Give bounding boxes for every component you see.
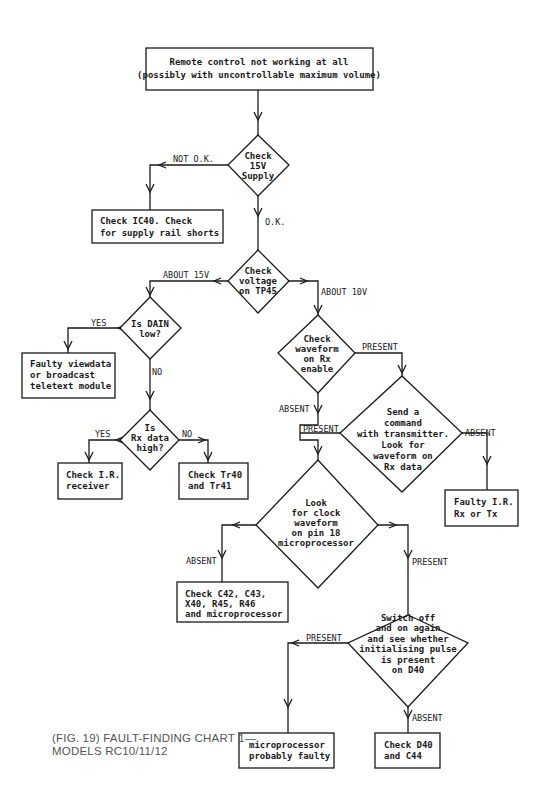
label-ok: O.K. (265, 217, 285, 227)
label-absent-send: ABSENT (465, 428, 496, 438)
label-absent-rx-enable: ABSENT (279, 404, 310, 414)
svg-text:Is DAIN: Is DAIN (131, 319, 169, 329)
svg-text:microprocessor: microprocessor (278, 538, 354, 548)
decision-switch-off-on: Switch off and on again and see whether … (348, 613, 468, 707)
svg-text:probably faulty: probably faulty (249, 751, 331, 761)
connector (179, 440, 208, 463)
connector (289, 281, 318, 315)
svg-text:and Tr41: and Tr41 (188, 481, 231, 491)
label-no-rx: NO (182, 429, 192, 439)
node-check-ic40: Check IC40. Check for supply rail shorts (92, 210, 223, 243)
svg-text:Check C42, C43,: Check C42, C43, (185, 589, 266, 599)
label-present-init: PRESENT (306, 633, 342, 643)
svg-text:for clock: for clock (292, 508, 341, 518)
svg-text:command: command (384, 418, 422, 428)
svg-text:(possibly with uncontrollable: (possibly with uncontrollable maximum vo… (137, 70, 381, 80)
svg-text:X40, R45, R46: X40, R45, R46 (185, 599, 255, 609)
caption-line-1: (FIG. 19) FAULT-FINDING CHART 1— (52, 732, 256, 745)
label-about-10v: ABOUT 10V (321, 287, 367, 297)
svg-text:Check: Check (303, 334, 331, 344)
svg-text:teletext module: teletext module (30, 381, 112, 391)
svg-text:for supply rail shorts: for supply rail shorts (100, 228, 219, 238)
node-check-tr40: Check Tr40 and Tr41 (179, 463, 248, 499)
connector (462, 433, 487, 490)
svg-text:Send a: Send a (387, 407, 420, 417)
svg-text:Faulty viewdata: Faulty viewdata (30, 359, 111, 369)
connector (150, 165, 228, 210)
label-present-rx-enable: PRESENT (362, 342, 398, 352)
node-check-c42: Check C42, C43, X40, R45, R46 and microp… (177, 582, 288, 622)
decision-check-tp45: Check voltage on TP45 (228, 250, 289, 313)
svg-text:Look for: Look for (381, 440, 425, 450)
svg-text:Remote control not working at: Remote control not working at all (170, 57, 349, 67)
connector (68, 328, 120, 353)
label-no-dain: NO (152, 367, 162, 377)
svg-text:Check: Check (244, 151, 272, 161)
connector (288, 643, 348, 733)
svg-text:Switch off: Switch off (381, 613, 435, 623)
decision-clock-waveform: Look for clock waveform on pin 18 microp… (256, 460, 378, 588)
caption-line-2: MODELS RC10/11/12 (52, 745, 256, 758)
svg-text:and on again: and on again (375, 623, 440, 633)
decision-rx-data-high: Is Rx data high? (120, 410, 179, 470)
svg-text:Is: Is (145, 423, 156, 433)
svg-text:Check Tr40: Check Tr40 (188, 470, 242, 480)
label-yes-rx: YES (95, 429, 110, 439)
svg-text:Supply: Supply (242, 171, 275, 181)
svg-text:Rx data: Rx data (131, 433, 169, 443)
node-start: Remote control not working at all (possi… (137, 48, 381, 90)
svg-text:and C44: and C44 (384, 751, 423, 761)
svg-text:Check D40: Check D40 (384, 740, 433, 750)
svg-text:15V: 15V (250, 161, 267, 171)
svg-text:low?: low? (139, 329, 161, 339)
svg-text:microprocessor: microprocessor (249, 740, 325, 750)
connector (222, 525, 256, 582)
svg-text:initialising pulse: initialising pulse (359, 644, 457, 654)
svg-text:enable: enable (301, 364, 334, 374)
svg-text:Faulty I.R.: Faulty I.R. (454, 497, 514, 507)
svg-text:on Rx: on Rx (303, 354, 331, 364)
node-faulty-viewdata: Faulty viewdata or broadcast teletext mo… (22, 353, 115, 398)
connector (352, 353, 402, 376)
label-about-15v: ABOUT 15V (163, 270, 209, 280)
flowchart: Remote control not working at all (possi… (0, 0, 545, 809)
svg-text:on D40: on D40 (392, 665, 425, 675)
svg-text:Look: Look (305, 498, 327, 508)
label-absent-init: ABSENT (412, 713, 443, 723)
svg-text:on pin 18: on pin 18 (292, 528, 341, 538)
decision-check-15v: Check 15V Supply (228, 135, 289, 196)
label-absent-clock: ABSENT (186, 556, 217, 566)
svg-text:is present: is present (381, 655, 435, 665)
node-faulty-ir: Faulty I.R. Rx or Tx (445, 490, 518, 526)
svg-text:Check I.R.: Check I.R. (66, 470, 120, 480)
node-check-d40: Check D40 and C44 (375, 733, 440, 768)
label-present-clock: PRESENT (412, 557, 448, 567)
node-check-ir-receiver: Check I.R. receiver (58, 463, 122, 499)
svg-text:high?: high? (136, 443, 163, 453)
label-present-send: PRESENT (303, 424, 339, 434)
svg-text:on TP45: on TP45 (239, 286, 277, 296)
decision-check-rx-enable: Check waveform on Rx enable (278, 315, 355, 393)
connector (378, 525, 408, 615)
svg-text:voltage: voltage (239, 276, 278, 286)
decision-send-command: Send a command with transmitter. Look fo… (340, 376, 462, 492)
svg-text:Check IC40. Check: Check IC40. Check (100, 216, 193, 226)
svg-text:and see whether: and see whether (367, 634, 449, 644)
connector (150, 281, 228, 297)
label-yes-dain: YES (91, 318, 106, 328)
svg-text:waveform on: waveform on (373, 451, 433, 461)
svg-text:Rx or Tx: Rx or Tx (454, 509, 498, 519)
svg-text:waveform: waveform (295, 344, 339, 354)
svg-text:Rx data: Rx data (384, 462, 422, 472)
svg-text:with transmitter.: with transmitter. (357, 429, 449, 439)
figure-caption: (FIG. 19) FAULT-FINDING CHART 1— MODELS … (52, 732, 256, 758)
svg-text:and microprocessor: and microprocessor (185, 609, 283, 619)
label-not-ok: NOT O.K. (173, 154, 214, 164)
svg-text:Check: Check (244, 266, 272, 276)
connector (89, 440, 120, 463)
svg-text:or broadcast: or broadcast (30, 370, 95, 380)
svg-text:waveform: waveform (294, 518, 338, 528)
decision-dain-low: Is DAIN low? (120, 297, 181, 359)
svg-text:receiver: receiver (66, 481, 110, 491)
